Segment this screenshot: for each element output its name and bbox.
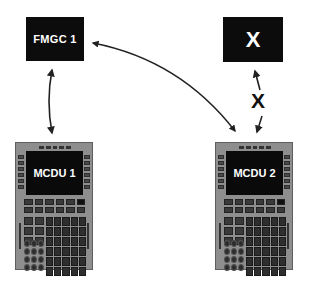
function-keys-row-1: [24, 199, 85, 205]
line-select-keys-left: [218, 155, 224, 189]
function-keys-row-1: [224, 199, 285, 205]
line-select-keys-right: [284, 155, 290, 189]
mcdu2-panel: MCDU 2: [215, 142, 293, 270]
arrow-x-up: [255, 71, 260, 90]
mcdu1-screen: MCDU 1: [26, 151, 83, 195]
blocked-link-x-mark: X: [251, 89, 265, 113]
brightness-slot-right: [287, 223, 289, 249]
annunciator-lights: [39, 146, 71, 149]
mcdu1-label: MCDU 1: [33, 167, 75, 179]
line-select-keys-left: [18, 155, 24, 189]
alpha-keypad: [46, 217, 86, 276]
mcdu2-screen: MCDU 2: [226, 151, 283, 195]
arrow-x-down: [257, 116, 262, 132]
mcdu2-label: MCDU 2: [233, 167, 275, 179]
function-keys-row-2: [24, 207, 85, 213]
mcdu1-panel: MCDU 1: [15, 142, 93, 270]
x-box: X: [223, 17, 283, 62]
annunciator-lights: [239, 146, 271, 149]
line-select-keys-right: [84, 155, 90, 189]
brightness-slot-right: [87, 223, 89, 249]
arrow-fmgc1-mcdu2: [93, 43, 235, 131]
fmgc1-label: FMGC 1: [33, 33, 76, 45]
alpha-keypad: [246, 217, 286, 276]
brightness-slot-left: [219, 223, 221, 249]
numeric-keypad: [24, 240, 44, 271]
fmgc1-box: FMGC 1: [26, 17, 84, 61]
numeric-keypad: [224, 240, 244, 271]
brightness-slot-left: [19, 223, 21, 249]
arrow-fmgc1-mcdu1: [49, 70, 52, 133]
function-keys-row-2: [224, 207, 285, 213]
x-box-label: X: [246, 27, 261, 53]
